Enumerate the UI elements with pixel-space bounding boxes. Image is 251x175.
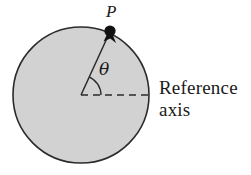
point-p-marker [104, 25, 115, 36]
figure-root: P θ Reference axis [0, 0, 251, 175]
reference-axis-label: Reference axis [159, 77, 238, 122]
reference-axis-label-line2: axis [159, 99, 238, 121]
reference-axis-label-line1: Reference [159, 77, 238, 99]
theta-angle-label: θ [99, 61, 109, 78]
point-p-label: P [106, 3, 116, 20]
